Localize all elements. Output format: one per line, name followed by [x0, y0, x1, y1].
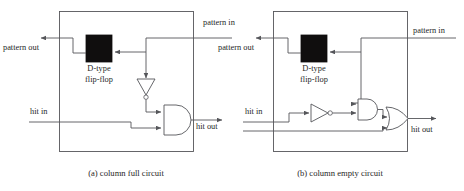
panel-a-flip-flop-label-line2: flip-flop — [85, 75, 113, 86]
circuit-drawing-canvas — [0, 0, 464, 191]
panel-b-pattern-out-label: pattern out — [218, 43, 254, 53]
panel-a-hit-in-label: hit in — [30, 107, 47, 117]
panel-b-caption: (b) column empty circuit — [297, 168, 383, 178]
panel-b-and-output-wire — [378, 110, 388, 118]
panel-b-pattern-in-label: pattern in — [413, 26, 445, 36]
panel-b-or-gate — [386, 107, 408, 130]
panel-b-and-gate — [358, 99, 378, 120]
panel-a-inverter-body — [137, 79, 155, 95]
panel-b-inverter-bubble — [328, 111, 332, 115]
panel-b-hit-in-bypass-wire — [243, 128, 387, 131]
panel-a-flip-flop-block — [86, 35, 112, 62]
panel-a-and-gate — [164, 105, 191, 135]
panel-a-flip-flop-label: D-type flip-flop — [85, 64, 113, 85]
panel-a-inverter-bubble — [144, 95, 148, 99]
panel-a-hit-in-wire — [29, 122, 161, 128]
panel-a-hit-out-label: hit out — [196, 122, 218, 132]
panel-b-inverter-body — [311, 104, 328, 122]
panel-b-hit-out-label: hit out — [411, 125, 433, 135]
figure-root: pattern out pattern in hit in hit out D-… — [0, 0, 464, 191]
panel-b-and-top-feed — [352, 52, 361, 103]
panel-b-hit-in-label: hit in — [245, 107, 262, 117]
panel-b-ff-output-wire — [288, 38, 301, 53]
panel-a-caption: (a) column full circuit — [88, 168, 164, 178]
panel-a-inverter-output-wire — [146, 100, 161, 113]
panel-a-ff-output-wire — [73, 38, 86, 53]
panel-b-flip-flop-label: D-type flip-flop — [300, 64, 328, 85]
panel-b-flip-flop-label-line2: flip-flop — [300, 75, 328, 86]
panel-a-pattern-in-label: pattern in — [203, 18, 235, 28]
panel-b-boundary-box — [274, 12, 408, 152]
panel-a-flip-flop-label-line1: D-type — [85, 64, 113, 75]
panel-a-pattern-out-label: pattern out — [3, 43, 39, 53]
panel-b-flip-flop-label-line1: D-type — [300, 64, 328, 75]
panel-b-flip-flop-block — [301, 35, 327, 62]
